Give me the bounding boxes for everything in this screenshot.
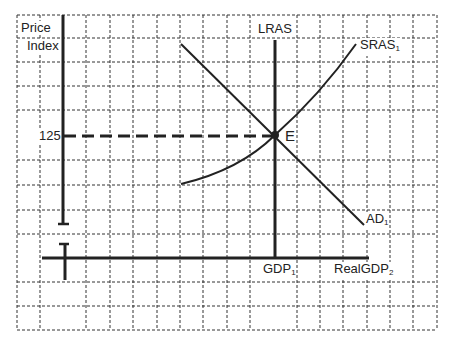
lras-label: LRAS: [258, 22, 292, 36]
y-axis-label-price: Price: [21, 21, 51, 35]
equilibrium-point: [271, 131, 279, 139]
sras-label-sub: 1: [395, 44, 399, 53]
sras-label-text: SRAS: [360, 37, 395, 52]
gdp1-label: GDP1: [263, 262, 296, 280]
grid: [17, 15, 437, 330]
realgdp-label-text: RealGDP: [334, 261, 389, 276]
gdp1-label-text: GDP: [263, 261, 291, 276]
x-axis-label-realgdp: RealGDP2: [334, 262, 393, 280]
equilibrium-label: E: [285, 129, 295, 143]
ad-label-text: AD: [366, 211, 384, 226]
realgdp-label-sub: 2: [389, 268, 393, 277]
price-125-label: 125: [39, 129, 61, 143]
y-axis-label-index: Index: [27, 39, 59, 53]
price-axis: [58, 15, 69, 280]
gdp1-label-sub: 1: [291, 268, 295, 277]
ad-label: AD1: [366, 212, 389, 230]
ad-label-sub: 1: [384, 218, 388, 227]
sras-curve: [181, 44, 356, 184]
sras-label: SRAS1: [360, 38, 400, 56]
